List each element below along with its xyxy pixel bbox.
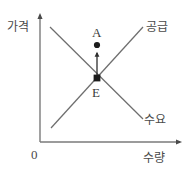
x-axis-label: 수량 xyxy=(143,152,165,164)
point-e-label: E xyxy=(92,86,100,99)
supply-curve-label: 공급 xyxy=(146,21,168,33)
supply-demand-diagram: 가격 공급 수요 수량 A E 0 xyxy=(0,0,194,175)
y-axis-label: 가격 xyxy=(7,21,29,33)
point-a-label: A xyxy=(92,26,101,39)
origin-label: 0 xyxy=(31,148,38,161)
point-a-marker xyxy=(94,42,100,48)
demand-curve-label: 수요 xyxy=(144,114,166,126)
point-e-marker xyxy=(94,75,101,82)
